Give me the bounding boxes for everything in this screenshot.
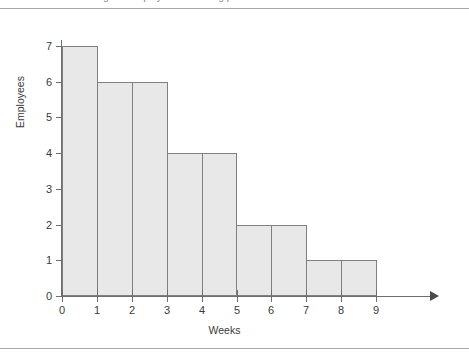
bar[interactable] (62, 46, 98, 296)
x-axis-tick (271, 290, 272, 302)
x-axis-tick (97, 290, 98, 302)
y-axis-tick-label: 0 (30, 290, 52, 302)
figure-container: Figure: Employees remaining per week vs.… (0, 0, 469, 362)
x-axis-tick (306, 290, 307, 302)
x-axis-tick-label: 2 (121, 304, 143, 316)
bar[interactable] (167, 153, 203, 296)
bar[interactable] (236, 225, 272, 296)
x-axis-tick-label: 0 (51, 304, 73, 316)
y-axis-tick-label: 7 (30, 40, 52, 52)
x-axis-tick-label: 8 (330, 304, 352, 316)
y-axis-tick-label: 6 (30, 76, 52, 88)
x-axis-title-text: Weeks (209, 324, 241, 336)
bar-series (62, 46, 376, 296)
x-axis-tick (376, 290, 377, 302)
y-axis-tick-label: 3 (30, 183, 52, 195)
bar[interactable] (306, 260, 342, 296)
x-axis-tick-label: 7 (295, 304, 317, 316)
x-axis-tick (202, 290, 203, 302)
x-axis-tick (341, 290, 342, 302)
x-axis-tick-label: 4 (191, 304, 213, 316)
x-axis-tick (167, 290, 168, 302)
y-axis-tick-label: 2 (30, 219, 52, 231)
bar[interactable] (132, 82, 168, 296)
y-axis-tick-label: 4 (30, 147, 52, 159)
bottom-divider-rule (0, 348, 469, 349)
x-axis-tick-label: 9 (365, 304, 387, 316)
bar[interactable] (341, 260, 377, 296)
x-axis-tick (62, 290, 63, 302)
x-axis-arrowhead-icon (430, 291, 439, 301)
y-axis-tick-label: 1 (30, 254, 52, 266)
x-axis-tick-label: 3 (156, 304, 178, 316)
y-axis-tick-label: 5 (30, 111, 52, 123)
x-axis-title: Weeks (0, 324, 469, 336)
chart-plot-area: 7 6 5 4 3 2 1 0 (0, 0, 469, 362)
x-axis-tick-label: 1 (86, 304, 108, 316)
x-axis-tick (132, 290, 133, 302)
x-axis-tick (237, 290, 238, 302)
bar[interactable] (271, 225, 307, 296)
x-axis-tick-label: 6 (260, 304, 282, 316)
bar[interactable] (97, 82, 133, 296)
x-axis-tick-label: 5 (226, 304, 248, 316)
bar[interactable] (202, 153, 238, 296)
y-axis-title: Employees (14, 76, 26, 128)
